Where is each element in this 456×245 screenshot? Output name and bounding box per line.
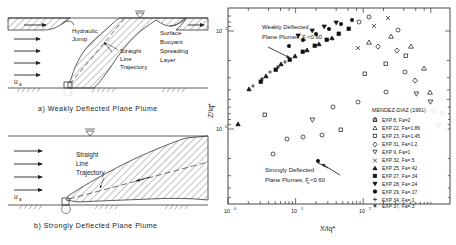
y-tick-0: 10 bbox=[216, 126, 222, 132]
legend-label-7: EXP 27, Fa=.34 bbox=[382, 173, 418, 179]
series-exp22-points bbox=[367, 34, 433, 94]
surface-layer-label-line3: Spreading bbox=[160, 47, 189, 54]
velocity-label-b: u bbox=[14, 193, 18, 200]
legend: MENDEZ-DIAZ (1991) EXP 8, Fa=2 EXP 22, F… bbox=[368, 106, 448, 209]
figure-container: u a Hydraulic Jump Straight Line Traject… bbox=[0, 0, 456, 245]
strongly-annotation-line2b: <0.60 bbox=[310, 177, 326, 183]
x-axis-label: X/Iq* bbox=[320, 225, 335, 233]
trajectory-label-b-line3: Trajectory bbox=[76, 169, 105, 177]
ambient-flow-arrows-b bbox=[14, 151, 42, 190]
legend-label-10: EXP 34, Fa=.1 bbox=[382, 197, 415, 203]
velocity-subscript-b: a bbox=[19, 197, 22, 202]
x-axis-top-ticks bbox=[248, 8, 430, 13]
strongly-annotation-line1: Strongly Deflected bbox=[265, 167, 314, 173]
legend-label-5: EXP 32, Fa=.5 bbox=[382, 157, 415, 163]
legend-label-9: EXP 29, Fa=.17 bbox=[382, 189, 418, 195]
scatter-plot: 10 0 10 1 10 2 10 1 10 0 X/Iq* Z/Iq* bbox=[207, 8, 450, 233]
y-axis-ticks bbox=[228, 16, 234, 197]
weakly-annotation-line2b: <0.60 bbox=[307, 34, 323, 40]
figure-svg: u a Hydraulic Jump Straight Line Traject… bbox=[0, 0, 456, 245]
x-tick-0-exp: 0 bbox=[234, 206, 237, 211]
weakly-annotation-arrow bbox=[268, 47, 290, 58]
legend-title: MENDEZ-DIAZ (1991) bbox=[372, 107, 426, 113]
x-tick-0: 10 bbox=[224, 208, 230, 214]
surface-layer-label-line1: Surface bbox=[160, 29, 182, 36]
x-tick-1-exp: 1 bbox=[301, 206, 304, 211]
velocity-label-a: u bbox=[14, 78, 18, 85]
strongly-annotation-arrow bbox=[322, 164, 340, 175]
legend-label-8: EXP 28, Fa=.24 bbox=[382, 181, 418, 187]
circle-filled-icon bbox=[373, 190, 377, 194]
hydraulic-jump-label-line2: Jump bbox=[72, 35, 88, 42]
ambient-flow-arrows-a bbox=[14, 39, 40, 75]
trajectory-label-a-line1: Straight bbox=[120, 47, 142, 54]
surface-layer-label-line2: Buoyant bbox=[160, 38, 183, 45]
surface-layer-label-line4: Layer bbox=[160, 56, 175, 63]
panel-b-diagram: u a Straight Line Trajectory b) Strongly… bbox=[8, 129, 208, 230]
trajectory-label-a-line3: Trajectory bbox=[120, 63, 148, 70]
legend-label-0: EXP 8, Fa=2 bbox=[382, 117, 411, 123]
bed-hatching-a bbox=[17, 88, 185, 92]
square-filled-icon bbox=[373, 174, 376, 177]
panel-a-diagram: u a Hydraulic Jump Straight Line Traject… bbox=[8, 11, 208, 113]
hydraulic-jump-label-line1: Hydraulic bbox=[72, 27, 98, 34]
y-axis-label: Z/Iq* bbox=[207, 103, 215, 118]
panel-b-caption: b) Strongly Deflected Plane Plume bbox=[34, 222, 158, 230]
x-tick-2: 10 bbox=[359, 208, 365, 214]
velocity-subscript-a: a bbox=[19, 82, 22, 87]
weakly-annotation-line2a: Plane Plumes, F bbox=[262, 34, 306, 40]
trajectory-label-b-line2: Line bbox=[76, 160, 89, 167]
legend-label-2: EXP 23, Fa=1.45 bbox=[382, 133, 420, 139]
x-tick-1: 10 bbox=[291, 208, 297, 214]
weakly-annotation-line1: Weakly Deflected bbox=[262, 24, 309, 30]
ambient-layer-a bbox=[8, 18, 70, 30]
legend-label-1: EXP 22, Fa=1.86 bbox=[382, 125, 420, 131]
strongly-annotation-leader bbox=[318, 163, 328, 168]
axis-tick-labels: 10 0 10 1 10 2 10 1 10 0 bbox=[216, 26, 372, 215]
x-tick-2-exp: 2 bbox=[369, 206, 372, 211]
y-tick-1: 10 bbox=[216, 28, 222, 34]
legend-label-4: EXP 9, Fa=1 bbox=[382, 149, 411, 155]
series-exp31-points bbox=[376, 44, 436, 113]
annotation-strongly-deflected: Strongly Deflected Plane Plumes, F o <0.… bbox=[265, 163, 340, 185]
series-exp25-points bbox=[236, 36, 334, 126]
legend-label-3: EXP 31, Fa=1.2 bbox=[382, 141, 418, 147]
water-surface-symbol-a bbox=[135, 11, 145, 18]
legend-label-6: EXP 25, Fa=.42 bbox=[382, 165, 418, 171]
trajectory-label-b-line1: Straight bbox=[76, 151, 99, 159]
bed-hatching-b bbox=[19, 205, 188, 209]
panel-a-caption: a) Weakly Deflected Plane Plume bbox=[38, 105, 158, 113]
strongly-annotation-line2a: Plane Plumes, F bbox=[265, 177, 309, 183]
legend-label-11: EXP 37, Fa=.3 bbox=[382, 203, 415, 209]
water-surface-symbol-b bbox=[85, 129, 95, 136]
trajectory-label-a-line2: Line bbox=[120, 55, 132, 62]
star-icon bbox=[373, 204, 377, 208]
